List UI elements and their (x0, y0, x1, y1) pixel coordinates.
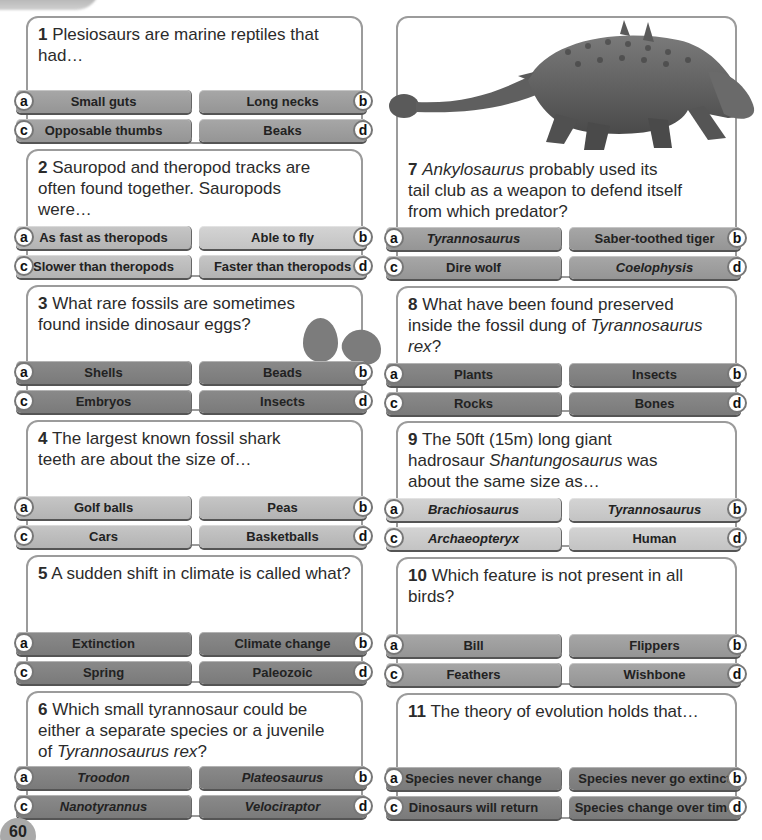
answer-1a[interactable]: Small guts (16, 90, 192, 113)
answer-3c[interactable]: Embryos (16, 390, 192, 413)
letter-8c: c (384, 393, 404, 413)
answer-3a[interactable]: Shells (16, 361, 192, 384)
answer-3b[interactable]: Beads (199, 361, 367, 384)
letter-5c: c (14, 662, 34, 682)
answer-11d[interactable]: Species change over time (569, 796, 741, 819)
answer-8d[interactable]: Bones (569, 392, 741, 415)
letter-3c: c (14, 391, 34, 411)
letter-11d: d (727, 797, 747, 817)
answer-2d[interactable]: Faster than theropods (199, 255, 367, 278)
letter-7a: a (384, 228, 404, 248)
letter-11b: b (727, 768, 747, 788)
letter-2a: a (14, 227, 34, 247)
letter-11c: c (384, 797, 404, 817)
letter-6c: c (14, 796, 34, 816)
question-10-text: 10 Which feature is not present in all b… (408, 565, 733, 607)
letter-1a: a (14, 91, 34, 111)
question-3-text: 3 What rare fossils are sometimes found … (38, 293, 328, 335)
question-4-text: 4 The largest known fossil shark teeth a… (38, 428, 308, 470)
letter-4b: b (353, 497, 373, 517)
letter-4d: d (353, 526, 373, 546)
answer-9a[interactable]: Brachiosaurus (386, 498, 562, 521)
letter-7b: b (727, 228, 747, 248)
answer-10c[interactable]: Feathers (386, 663, 562, 686)
answer-6d[interactable]: Velociraptor (199, 795, 367, 818)
letter-6a: a (14, 767, 34, 787)
letter-9d: d (727, 528, 747, 548)
letter-11a: a (384, 768, 404, 788)
letter-1b: b (353, 91, 373, 111)
header-decoration (0, 0, 100, 10)
answer-10a[interactable]: Bill (386, 634, 562, 657)
answer-2a[interactable]: As fast as theropods (16, 226, 192, 249)
question-8-text: 8 What have been found preserved inside … (408, 294, 708, 357)
answer-5b[interactable]: Climate change (199, 632, 367, 655)
answer-11a[interactable]: Species never change (386, 767, 562, 790)
letter-5a: a (14, 633, 34, 653)
answer-5c[interactable]: Spring (16, 661, 192, 684)
ankylosaurus-image (388, 10, 762, 150)
letter-5b: b (353, 633, 373, 653)
letter-8a: a (384, 364, 404, 384)
answer-8b[interactable]: Insects (569, 363, 741, 386)
letter-1d: d (353, 120, 373, 140)
letter-9a: a (384, 499, 404, 519)
letter-7d: d (727, 257, 747, 277)
letter-2d: d (353, 256, 373, 276)
letter-3b: b (353, 362, 373, 382)
answer-3d[interactable]: Insects (199, 390, 367, 413)
letter-5d: d (353, 662, 373, 682)
answer-7d[interactable]: Coelophysis (569, 256, 741, 279)
letter-7c: c (384, 257, 404, 277)
answer-5d[interactable]: Paleozoic (199, 661, 367, 684)
letter-4c: c (14, 526, 34, 546)
answer-1d[interactable]: Beaks (199, 119, 367, 142)
letter-6d: d (353, 796, 373, 816)
page-title-fragment: gg (318, 0, 428, 8)
answer-7a[interactable]: Tyrannosaurus (386, 227, 562, 250)
letter-10a: a (384, 635, 404, 655)
letter-9c: c (384, 528, 404, 548)
letter-6b: b (353, 767, 373, 787)
question-1-text: 1 Plesiosaurs are marine reptiles that h… (38, 24, 358, 66)
answer-7c[interactable]: Dire wolf (386, 256, 562, 279)
letter-1c: c (14, 120, 34, 140)
answer-11b[interactable]: Species never go extinct (569, 767, 741, 790)
page-number-badge: 60 (0, 818, 36, 840)
answer-10d[interactable]: Wishbone (569, 663, 741, 686)
letter-9b: b (727, 499, 747, 519)
answer-6c[interactable]: Nanotyrannus (16, 795, 192, 818)
letter-8b: b (727, 364, 747, 384)
answer-7b[interactable]: Saber-toothed tiger (569, 227, 741, 250)
egg-icon (303, 318, 338, 362)
letter-10d: d (727, 664, 747, 684)
answer-6b[interactable]: Plateosaurus (199, 766, 367, 789)
letter-8d: d (727, 393, 747, 413)
question-7-text: 7 Ankylosaurus probably used its tail cl… (408, 159, 683, 222)
answer-9c[interactable]: Archaeopteryx (386, 527, 562, 550)
answer-8c[interactable]: Rocks (386, 392, 562, 415)
answer-4b[interactable]: Peas (199, 496, 367, 519)
answer-6a[interactable]: Troodon (16, 766, 192, 789)
answer-9b[interactable]: Tyrannosaurus (569, 498, 741, 521)
question-5-text: 5 A sudden shift in climate is called wh… (38, 563, 358, 584)
answer-5a[interactable]: Extinction (16, 632, 192, 655)
question-11-text: 11 The theory of evolution holds that… (408, 701, 733, 722)
answer-10b[interactable]: Flippers (569, 634, 741, 657)
question-9-text: 9 The 50ft (15m) long giant hadrosaur Sh… (408, 429, 688, 492)
answer-9d[interactable]: Human (569, 527, 741, 550)
answer-4a[interactable]: Golf balls (16, 496, 192, 519)
answer-2b[interactable]: Able to fly (199, 226, 367, 249)
question-6-text: 6 Which small tyrannosaur could be eithe… (38, 699, 328, 762)
answer-1b[interactable]: Long necks (199, 90, 367, 113)
answer-11c[interactable]: Dinosaurs will return (386, 796, 562, 819)
answer-4c[interactable]: Cars (16, 525, 192, 548)
letter-10b: b (727, 635, 747, 655)
letter-2b: b (353, 227, 373, 247)
letter-2c: c (14, 256, 34, 276)
letter-3a: a (14, 362, 34, 382)
answer-4d[interactable]: Basketballs (199, 525, 367, 548)
answer-2c[interactable]: Slower than theropods (16, 255, 192, 278)
answer-1c[interactable]: Opposable thumbs (16, 119, 192, 142)
answer-8a[interactable]: Plants (386, 363, 562, 386)
